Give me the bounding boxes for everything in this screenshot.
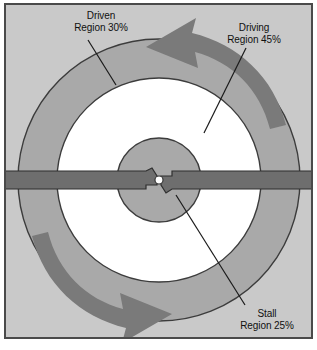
label-driven-line1: Driven [58,10,144,22]
label-stall-region: Stall Region 25% [224,308,310,331]
label-driven-line2: Region 30% [58,22,144,34]
figure-page: Driven Region 30% Driving Region 45% Sta… [0,0,317,350]
hub-pivot [155,176,163,184]
label-driving-region: Driving Region 45% [211,22,297,45]
figure-frame: Driven Region 30% Driving Region 45% Sta… [4,3,313,339]
circular-region-diagram [6,5,311,337]
label-stall-line2: Region 25% [224,320,310,332]
label-driving-line1: Driving [211,22,297,34]
label-driven-region: Driven Region 30% [58,10,144,33]
blade-shaft-left [6,168,157,189]
label-stall-line1: Stall [224,308,310,320]
label-driving-line2: Region 45% [211,34,297,46]
